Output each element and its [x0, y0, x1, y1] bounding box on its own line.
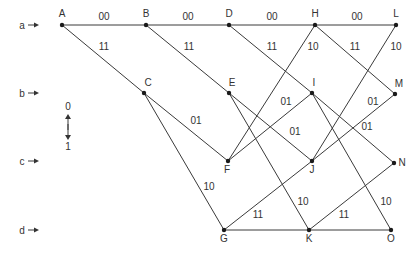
node-C — [142, 91, 146, 95]
edge-label: 00 — [351, 11, 363, 22]
node-label-E: E — [229, 77, 236, 88]
arrow-right-icon — [34, 23, 39, 28]
edge-label: 10 — [307, 41, 319, 52]
node-label-F: F — [224, 164, 230, 175]
edge-label: 01 — [367, 96, 379, 107]
node-O — [389, 228, 393, 232]
node-A — [60, 23, 64, 27]
state-label-a: a — [19, 20, 25, 31]
edge-label: 01 — [190, 115, 202, 126]
edge-I-N — [312, 93, 394, 163]
node-G — [222, 228, 226, 232]
node-H — [313, 23, 317, 27]
node-label-J: J — [310, 164, 315, 175]
state-label-c: c — [20, 156, 25, 167]
bit-legend: 0 1 — [65, 101, 71, 152]
node-B — [144, 23, 148, 27]
node-J — [310, 159, 314, 163]
edge-D-I — [229, 25, 312, 93]
edge-label: 01 — [280, 96, 292, 107]
arrow-right-icon — [34, 228, 39, 233]
node-label-H: H — [311, 8, 318, 19]
edge-C-F — [144, 93, 228, 161]
edge-label: 10 — [380, 196, 392, 207]
node-D — [227, 23, 231, 27]
node-label-I: I — [313, 77, 316, 88]
edge-A-C — [62, 25, 144, 93]
node-label-G: G — [220, 233, 228, 244]
node-label-C: C — [144, 77, 151, 88]
node-label-O: O — [387, 233, 395, 244]
edge-C-G — [144, 93, 224, 230]
edge-label: 10 — [390, 41, 402, 52]
node-label-D: D — [225, 8, 232, 19]
edge-E-K — [229, 93, 309, 230]
edge-label: 01 — [361, 121, 373, 132]
edge-H-M — [315, 25, 395, 94]
arrow-right-icon — [34, 91, 39, 96]
node-label-K: K — [306, 233, 313, 244]
node-E — [227, 91, 231, 95]
legend-zero-label: 0 — [65, 101, 71, 112]
node-label-N: N — [398, 157, 405, 168]
edge-label: 01 — [289, 126, 301, 137]
edge-label: 11 — [184, 41, 195, 52]
edge-label: 00 — [182, 11, 194, 22]
node-F — [226, 159, 230, 163]
node-M — [393, 92, 397, 96]
edge-label: 11 — [253, 209, 264, 220]
edge-label: 11 — [339, 209, 350, 220]
node-L — [394, 23, 398, 27]
edge-label: 00 — [98, 11, 110, 22]
arrow-right-icon — [34, 159, 39, 164]
node-N — [392, 161, 396, 165]
node-K — [307, 228, 311, 232]
legend-one-label: 1 — [65, 141, 71, 152]
state-label-b: b — [19, 88, 25, 99]
trellis-diagram: abcd 0 1 0000000011111111101001010101011… — [0, 0, 419, 255]
edge-label: 11 — [267, 41, 278, 52]
node-label-M: M — [395, 78, 403, 89]
edge-B-E — [146, 25, 229, 93]
node-label-B: B — [143, 8, 150, 19]
arrow-up-icon — [65, 114, 71, 119]
edge-label: 11 — [350, 41, 361, 52]
edge-I-O — [312, 93, 391, 230]
arrow-down-icon — [65, 135, 71, 140]
node-label-A: A — [59, 8, 66, 19]
node-I — [310, 91, 314, 95]
edge-label: 10 — [203, 181, 215, 192]
edge-label: 10 — [297, 196, 309, 207]
edge-label: 11 — [99, 41, 110, 52]
edge-label: 00 — [266, 11, 278, 22]
state-label-d: d — [19, 225, 25, 236]
node-label-L: L — [393, 8, 399, 19]
